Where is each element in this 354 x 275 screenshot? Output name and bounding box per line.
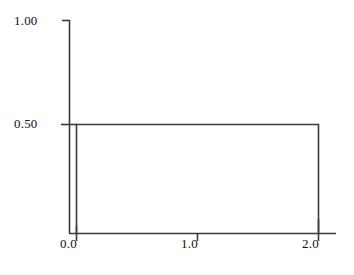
y-tick-label-0-50: 0.50	[14, 116, 38, 132]
chart-plot-area	[0, 0, 354, 275]
x-tick-label-2-0: 2.0	[302, 236, 319, 252]
density-rectangle-outline	[77, 125, 319, 234]
y-tick-label-1-00: 1.00	[14, 13, 38, 29]
x-tick-label-1-0: 1.0	[181, 236, 198, 252]
x-tick-label-0-0: 0.0	[60, 236, 77, 252]
chart-figure: 1.00 0.50 0.0 1.0 2.0	[0, 0, 354, 275]
